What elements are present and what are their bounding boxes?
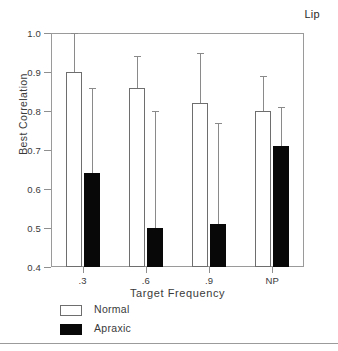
y-tick-mark: [44, 111, 51, 112]
y-tick-label: 0.4: [0, 262, 41, 273]
legend-swatch-apraxic: [60, 324, 82, 335]
x-tick-label: NP: [247, 275, 297, 286]
chart-title: Lip: [250, 8, 320, 20]
x-tick-mark: [146, 267, 147, 273]
bar-normal-0: [66, 72, 82, 267]
x-axis-label: Target Frequency: [51, 287, 304, 299]
y-tick-mark: [44, 189, 51, 190]
bar-normal-1: [129, 88, 145, 267]
figure: Lip Best Correlation 0.40.50.60.70.80.91…: [0, 0, 338, 351]
legend-item-normal: Normal: [60, 303, 220, 319]
x-tick-mark: [272, 267, 273, 273]
error-bar-cap-apraxic-0: [89, 88, 96, 89]
legend-swatch-normal: [60, 305, 82, 316]
bar-apraxic-3: [273, 146, 289, 267]
error-bar-normal-1: [137, 56, 138, 87]
y-tick-mark: [44, 33, 51, 34]
error-bar-cap-normal-1: [134, 56, 141, 57]
legend-item-apraxic: Apraxic: [60, 322, 220, 338]
error-bar-apraxic-0: [92, 88, 93, 174]
y-tick-label: 0.6: [0, 184, 41, 195]
error-bar-cap-normal-3: [260, 76, 267, 77]
error-bar-apraxic-3: [281, 107, 282, 146]
y-tick-label: 0.7: [0, 145, 41, 156]
y-tick-label: 0.5: [0, 223, 41, 234]
y-tick-mark: [44, 150, 51, 151]
y-tick-label: 1.0: [0, 28, 41, 39]
y-tick-label: 0.9: [0, 67, 41, 78]
y-tick-mark: [44, 72, 51, 73]
y-tick-label: 0.8: [0, 106, 41, 117]
error-bar-cap-apraxic-1: [152, 111, 159, 112]
bar-apraxic-0: [84, 173, 100, 267]
error-bar-apraxic-1: [155, 111, 156, 228]
x-axis-ticks: [51, 267, 304, 275]
error-bar-cap-apraxic-3: [278, 107, 285, 108]
error-bar-cap-normal-2: [197, 53, 204, 54]
plot-area: [51, 33, 304, 267]
bottom-divider: [0, 343, 338, 344]
legend-label-apraxic: Apraxic: [94, 322, 131, 334]
x-tick-mark: [209, 267, 210, 273]
bar-normal-2: [192, 103, 208, 267]
error-bar-normal-0: [74, 33, 75, 72]
x-tick-label: .6: [121, 275, 171, 286]
error-bar-normal-3: [263, 76, 264, 111]
x-tick-mark: [83, 267, 84, 273]
legend: NormalApraxic: [60, 303, 220, 341]
error-bar-cap-apraxic-2: [215, 123, 222, 124]
x-tick-label: .9: [184, 275, 234, 286]
y-tick-mark: [44, 267, 51, 268]
y-tick-mark: [44, 228, 51, 229]
error-bar-apraxic-2: [218, 123, 219, 224]
legend-label-normal: Normal: [94, 303, 130, 315]
error-bar-normal-2: [200, 53, 201, 104]
y-axis-ticks: 0.40.50.60.70.80.91.0: [0, 0, 41, 351]
bar-normal-3: [255, 111, 271, 267]
bar-apraxic-1: [147, 228, 163, 267]
x-tick-label: .3: [58, 275, 108, 286]
bar-apraxic-2: [210, 224, 226, 267]
error-bar-cap-normal-0: [71, 33, 78, 34]
